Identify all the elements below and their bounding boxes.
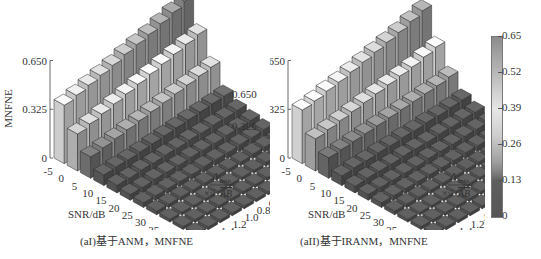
- bar3d-chart-iranm: 00.3250.650-50510152025303540450.10.20.3…: [270, 0, 485, 230]
- x-tick-label: 25: [360, 209, 372, 221]
- y-tick-label: 1.4: [221, 225, 235, 230]
- x-tick-label: 5: [310, 180, 316, 192]
- colorbar-tick-label: 0.65: [502, 29, 521, 41]
- colorbar-tick-mark: [498, 72, 502, 73]
- x-tick-label: 30: [373, 216, 385, 228]
- chart-panel-anm: 00.3250.650MNFNE-50510152025303540450.10…: [0, 0, 270, 259]
- z-tick-label: 0.650: [22, 55, 47, 67]
- y-axis-title-sub: min: [458, 177, 469, 185]
- x-tick-label: 0: [297, 172, 303, 184]
- y-axis-title-ab: AB: [457, 188, 470, 199]
- z-tick-label: 0: [42, 152, 48, 164]
- colorbar-tick-label: 0.26: [502, 137, 521, 149]
- z-tick-label-iranm-top: 0.650: [232, 88, 257, 100]
- x-tick-label: 15: [95, 194, 107, 206]
- x-tick-label: 20: [347, 202, 359, 214]
- bar3d-chart-anm: 00.3250.650MNFNE-50510152025303540450.10…: [0, 0, 270, 230]
- x-tick-label: 15: [333, 194, 345, 206]
- z-axis-title: MNFNE: [2, 89, 14, 128]
- y-tick-label: 1.4: [459, 225, 473, 230]
- y-axis-title-top: Δ: [449, 170, 456, 182]
- x-axis-title: SNR/dB: [68, 208, 105, 220]
- colorbar-tick-mark: [498, 144, 502, 145]
- y-tick-label: 0.8: [257, 204, 270, 216]
- y-axis-title-ab: AB: [219, 188, 232, 199]
- y-tick-label: 1.2: [233, 218, 247, 230]
- z-tick-label: 0: [280, 152, 286, 164]
- caption-iranm: (aII)基于IRANM，MNFNE: [300, 232, 428, 248]
- z-axis-title-iranm-holder: [262, 60, 276, 170]
- colorbar-tick-mark: [498, 180, 502, 181]
- x-axis-title: SNR/dB: [308, 208, 345, 220]
- caption-anm: (aI)基于ANM，MNFNE: [80, 232, 193, 248]
- x-tick-label: 5: [72, 180, 78, 192]
- chart-panel-iranm: 00.3250.650-50510152025303540450.10.20.3…: [270, 0, 485, 259]
- x-tick-label: 25: [122, 209, 134, 221]
- x-tick-label: 35: [386, 224, 398, 230]
- colorbar-tick-label: 0.13: [502, 173, 521, 185]
- y-axis-title-bottom: ×√: [204, 188, 216, 199]
- y-axis-title-bottom: ×√: [442, 188, 454, 199]
- colorbar-tick-label: 0.39: [502, 101, 521, 113]
- colorbar-tick-mark: [498, 108, 502, 109]
- colorbar: [491, 36, 503, 218]
- colorbar-tick-mark: [498, 216, 502, 217]
- colorbar-tick-mark: [498, 36, 502, 37]
- x-tick-label: 0: [59, 172, 65, 184]
- y-axis-title-sub: min: [220, 177, 231, 185]
- x-tick-label: 10: [82, 187, 94, 199]
- y-tick-label: 1.2: [471, 218, 485, 230]
- x-tick-label: 10: [320, 187, 332, 199]
- x-tick-label: 20: [109, 202, 121, 214]
- colorbar-tick-label: 0: [502, 209, 508, 221]
- colorbar-tick-label: 0.52: [502, 65, 521, 77]
- x-tick-label: -5: [281, 165, 291, 177]
- x-tick-label: 30: [135, 216, 147, 228]
- x-tick-label: -5: [43, 165, 53, 177]
- z-tick-label: 0.325: [22, 103, 47, 115]
- z-tick-label-iranm-mid: 0.325: [232, 120, 257, 132]
- y-tick-label: 1.0: [245, 211, 259, 223]
- y-axis-title-top: Δ: [211, 170, 218, 182]
- x-tick-label: 35: [148, 224, 160, 230]
